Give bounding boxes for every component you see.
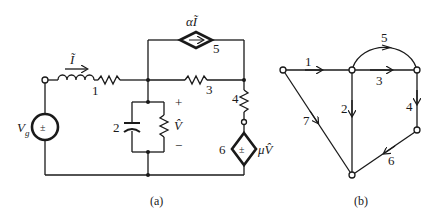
branch-6-label: 6 — [388, 153, 395, 168]
resistor-icon — [160, 115, 168, 137]
element-6-label: 6 — [219, 142, 226, 157]
minus-sign: − — [175, 138, 182, 153]
branch-1-label: 1 — [305, 54, 312, 69]
caption-b: (b) — [354, 194, 368, 208]
caption-a: (a) — [150, 194, 163, 208]
graph-node — [414, 127, 420, 133]
graph-b: 1 3 5 2 4 6 7 (b) — [280, 30, 420, 208]
element-4-label: 4 — [232, 91, 239, 106]
terminal-node — [42, 77, 48, 83]
element-5-label: 5 — [213, 41, 220, 56]
source-polarity: ± — [40, 122, 46, 133]
resistor-icon — [240, 90, 248, 112]
branch-3-label: 3 — [376, 73, 383, 88]
branch-2-label: 2 — [341, 101, 348, 116]
graph-node — [414, 67, 420, 73]
element-1-label: 1 — [92, 83, 99, 98]
dep-current-label: αĨ — [186, 14, 199, 29]
graph-node — [349, 172, 355, 178]
current-label: Ĩ — [69, 52, 76, 67]
circuit-figure: Ĩ 1 ± Vg 2 + V̂ − — [0, 0, 436, 222]
resistor-icon — [98, 76, 120, 84]
inductor-icon — [58, 75, 94, 80]
dep-voltage-label: μV̂ — [257, 142, 275, 157]
resistor-icon — [185, 76, 207, 84]
graph-node — [280, 67, 286, 73]
circuit-a: Ĩ 1 ± Vg 2 + V̂ − — [17, 14, 275, 208]
branch-4-label: 4 — [406, 99, 413, 114]
element-3-label: 3 — [206, 82, 213, 97]
branch-5-label: 5 — [381, 30, 388, 45]
graph-node — [349, 67, 355, 73]
element-2-label: 2 — [113, 120, 120, 135]
dep-source-polarity: ± — [239, 144, 245, 155]
plus-sign: + — [175, 95, 182, 110]
branch-7-label: 7 — [303, 113, 310, 128]
source-label: Vg — [17, 120, 30, 138]
voltage-label: V̂ — [174, 118, 184, 133]
branch-5 — [353, 47, 416, 67]
capacitor-icon — [124, 123, 140, 132]
